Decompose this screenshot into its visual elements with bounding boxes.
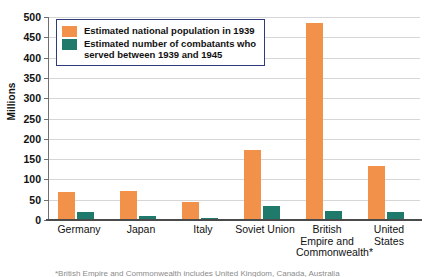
x-axis-label: Soviet Union — [234, 224, 296, 236]
bar — [263, 206, 280, 220]
legend-swatch — [62, 39, 77, 50]
bar — [244, 150, 261, 220]
y-axis-tick-label: 200 — [23, 133, 41, 145]
bar-group — [359, 17, 421, 220]
y-axis-tick-label: 500 — [23, 11, 41, 23]
bar-chart: Millions 050100150200250300350400450500 … — [0, 0, 425, 277]
y-axis-tick-label: 450 — [23, 31, 41, 43]
y-axis-tick-label: 350 — [23, 72, 41, 84]
x-axis-label: British Empire and Commonwealth* — [296, 224, 358, 259]
bar — [182, 202, 199, 220]
y-axis-tick-label: 250 — [23, 113, 41, 125]
y-axis-tick-label: 100 — [23, 173, 41, 185]
legend-swatch — [62, 26, 77, 37]
y-axis-tick-label: 50 — [29, 194, 41, 206]
bar — [120, 191, 137, 220]
y-axis-tick-label: 0 — [35, 214, 41, 226]
bar — [58, 192, 75, 220]
y-axis-tick-label: 150 — [23, 153, 41, 165]
chart-legend: Estimated national population in 1939Est… — [56, 19, 265, 66]
y-axis-title: Millions — [6, 62, 17, 142]
legend-item: Estimated national population in 1939 — [62, 25, 256, 37]
x-axis-label: United States — [358, 224, 420, 247]
x-axis-label: Japan — [110, 224, 172, 236]
bar — [306, 23, 323, 220]
bar — [368, 166, 385, 220]
legend-item: Estimated number of combatants who serve… — [62, 38, 256, 60]
footnote: *British Empire and Commonwealth include… — [55, 269, 395, 277]
x-axis-label: Italy — [172, 224, 234, 236]
bar-group — [297, 17, 359, 220]
x-axis-label: Germany — [48, 224, 110, 236]
legend-label: Estimated number of combatants who serve… — [84, 38, 256, 60]
x-axis-line — [46, 219, 422, 221]
y-axis-tick-label: 300 — [23, 92, 41, 104]
y-axis-tick-label: 400 — [23, 52, 41, 64]
legend-label: Estimated national population in 1939 — [84, 25, 255, 36]
